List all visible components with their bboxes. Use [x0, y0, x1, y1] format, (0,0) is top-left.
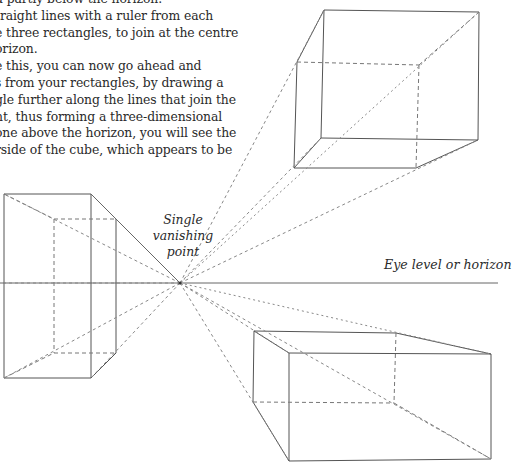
horizon-label: Eye level or horizon	[384, 257, 512, 273]
vanishing-point-label: Single vanishing point	[145, 212, 221, 260]
convergence-lines	[0, 10, 491, 461]
bottom-right-box	[253, 331, 491, 461]
vp-label-line: vanishing	[145, 228, 221, 244]
vp-label-line: Single	[145, 212, 221, 228]
vanishing-point-marker	[179, 282, 182, 285]
top-right-box	[294, 10, 479, 168]
left-box	[4, 194, 116, 378]
vp-label-line: point	[145, 244, 221, 260]
